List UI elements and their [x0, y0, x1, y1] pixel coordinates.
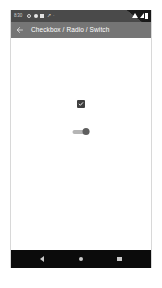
- page-title: Checkbox / Radio / Switch: [31, 27, 109, 34]
- nav-recents-button[interactable]: [113, 252, 127, 266]
- circle-home-icon: [79, 257, 84, 262]
- status-bar-right-group: [132, 13, 148, 18]
- battery-icon: [145, 13, 148, 18]
- triangle-back-icon: [40, 256, 44, 262]
- square-icon: [40, 14, 44, 18]
- switch[interactable]: [73, 128, 90, 135]
- phone-screenshot-frame: 8:30 ↗ · Checkbox / Radio / Switch: [10, 10, 152, 268]
- nav-back-button[interactable]: [35, 252, 49, 266]
- switch-thumb[interactable]: [83, 128, 90, 135]
- back-arrow-icon[interactable]: [16, 26, 24, 34]
- circle-filled-icon: [34, 14, 38, 18]
- status-bar-left-group: 8:30 ↗ ·: [14, 14, 132, 19]
- check-icon: [78, 101, 84, 107]
- signal-icon: [140, 13, 144, 18]
- wifi-icon: [132, 13, 138, 18]
- navigation-bar: [11, 250, 151, 268]
- app-bar: Checkbox / Radio / Switch: [11, 22, 151, 38]
- circle-outline-icon: [27, 14, 31, 18]
- content-area: [11, 38, 151, 250]
- status-bar-clock: 8:30: [14, 14, 22, 19]
- status-bar: 8:30 ↗ ·: [11, 10, 151, 22]
- nav-home-button[interactable]: [74, 252, 88, 266]
- square-recents-icon: [117, 257, 121, 261]
- chevron-icon: ↗: [47, 14, 51, 19]
- checkbox[interactable]: [77, 100, 85, 108]
- dot-icon: ·: [53, 14, 55, 19]
